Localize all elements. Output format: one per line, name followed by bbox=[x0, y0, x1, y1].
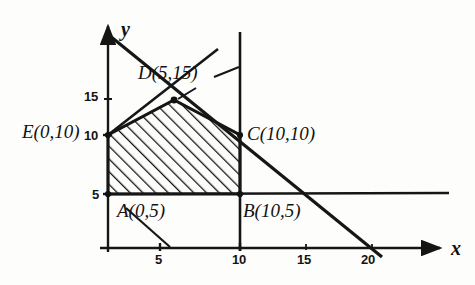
y-tick-label-10: 10 bbox=[84, 129, 98, 142]
y-axis-label: y bbox=[121, 19, 130, 39]
point-label-c: C(10,10) bbox=[247, 124, 315, 143]
y-tick-label-15: 15 bbox=[84, 90, 98, 103]
x-tick-label-15: 15 bbox=[297, 253, 311, 266]
graph-figure: E(0,10) D(5,15) C(10,10) A(0,5) B(10,5) … bbox=[0, 0, 475, 285]
x-tick-label-5: 5 bbox=[155, 253, 162, 266]
point-label-e: E(0,10) bbox=[22, 122, 80, 141]
shaded-feasible-region bbox=[108, 100, 240, 194]
x-tick-label-10: 10 bbox=[232, 253, 246, 266]
x-tick-label-20: 20 bbox=[361, 253, 375, 266]
point-label-d: D(5,15) bbox=[138, 63, 198, 82]
point-label-b: B(10,5) bbox=[243, 201, 301, 220]
coordinate-plot bbox=[0, 0, 475, 285]
constraint-line-horizontal bbox=[106, 193, 449, 194]
x-axis bbox=[100, 243, 440, 251]
x-axis-label: x bbox=[451, 238, 461, 258]
y-tick-label-5: 5 bbox=[92, 188, 99, 201]
point-label-a: A(0,5) bbox=[117, 201, 165, 220]
